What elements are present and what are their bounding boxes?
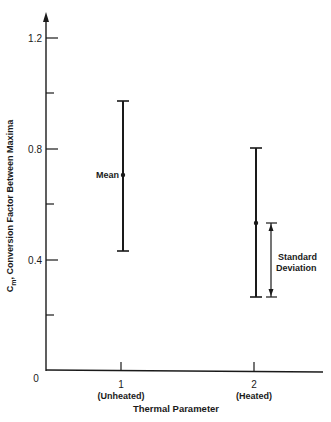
y-axis-title: Cm, Conversion Factor Between Maxima <box>5 119 17 292</box>
y-tick-label-0.8: 0.8 <box>28 144 42 155</box>
mean-point-unheated <box>121 173 125 177</box>
y-tick-label-0: 0 <box>33 373 39 384</box>
x-tick-sublabel-unheated: (Unheated) <box>98 391 145 401</box>
error-bar-chart: 1.2 0.8 0.4 0 1 2 (Unheated) (Heated) Th… <box>0 0 331 422</box>
y-tick-label-0.4: 0.4 <box>28 255 42 266</box>
x-tick-sublabel-heated: (Heated) <box>236 391 272 401</box>
arrow-up-icon <box>269 224 274 231</box>
y-axis-arrow-icon <box>43 12 49 22</box>
sd-annotation-line1: Standard <box>278 252 317 262</box>
arrow-down-icon <box>269 289 274 296</box>
sd-annotation-line2: Deviation <box>276 263 317 273</box>
x-tick-label-2: 2 <box>251 379 257 390</box>
standard-deviation-bracket <box>266 223 277 297</box>
mean-point-heated <box>254 221 258 225</box>
x-axis-title: Thermal Parameter <box>133 403 219 414</box>
x-axis <box>46 370 323 372</box>
y-ticks <box>46 38 58 315</box>
x-tick-label-1: 1 <box>118 379 124 390</box>
mean-annotation: Mean <box>96 170 119 180</box>
y-tick-label-1.2: 1.2 <box>28 33 42 44</box>
